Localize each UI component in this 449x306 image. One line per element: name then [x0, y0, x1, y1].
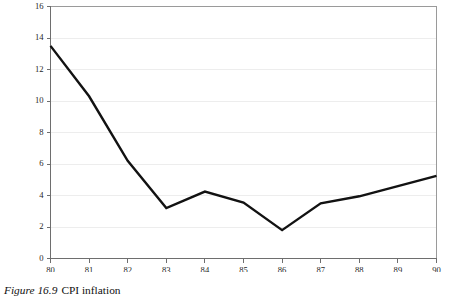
x-tick-label-81: 81 [85, 265, 94, 272]
x-tick-label-85: 85 [239, 265, 248, 272]
x-tick-label-90: 90 [432, 265, 441, 272]
x-tick-label-82: 82 [123, 265, 132, 272]
x-tick-label-88: 88 [355, 265, 364, 272]
y-tick-label-0: 0 [39, 253, 43, 263]
figure-container: 0246810121416 8081828384858687888990 Fig… [0, 0, 449, 306]
cpi-inflation-line-chart: 0246810121416 8081828384858687888990 [0, 0, 449, 272]
x-tick-label-89: 89 [394, 265, 403, 272]
y-axis-ticks [47, 7, 51, 259]
x-axis-ticks [51, 259, 437, 263]
x-tick-label-84: 84 [201, 265, 210, 272]
x-tick-label-83: 83 [162, 265, 171, 272]
x-tick-label-87: 87 [316, 265, 325, 272]
series-line-cpi-inflation [51, 46, 437, 230]
chart-plot-area: 0246810121416 8081828384858687888990 [0, 0, 449, 272]
y-tick-label-8: 8 [39, 127, 43, 137]
y-tick-label-12: 12 [35, 64, 44, 74]
y-tick-label-16: 16 [35, 1, 44, 11]
y-tick-label-6: 6 [39, 158, 44, 168]
y-tick-label-14: 14 [35, 32, 44, 42]
x-tick-label-86: 86 [278, 265, 287, 272]
y-tick-label-4: 4 [39, 190, 44, 200]
gridlines-group [51, 38, 437, 227]
y-axis-tick-labels: 0246810121416 [35, 1, 44, 263]
x-tick-label-80: 80 [46, 265, 55, 272]
y-tick-label-2: 2 [39, 221, 43, 231]
figure-number: Figure 16.9 [4, 284, 57, 296]
figure-title: CPI inflation [61, 284, 120, 296]
y-tick-label-10: 10 [35, 95, 44, 105]
figure-caption: Figure 16.9CPI inflation [4, 283, 121, 297]
x-axis-tick-labels: 8081828384858687888990 [46, 265, 441, 272]
